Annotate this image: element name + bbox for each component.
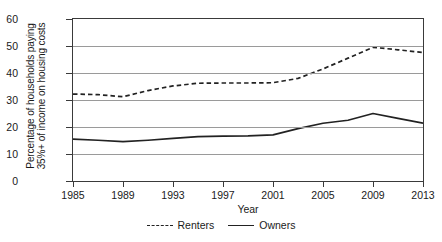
x-tick-label: 2009 xyxy=(351,189,395,201)
y-tick-label: 30 xyxy=(0,94,18,106)
chart-legend: RentersOwners xyxy=(0,219,442,231)
y-tick-label: 10 xyxy=(0,148,18,160)
x-axis-title: Year xyxy=(72,203,424,215)
x-tick-label: 2013 xyxy=(401,189,442,201)
y-tick-label: 50 xyxy=(0,40,18,52)
chart-figure: Percentage of households paying 35%+ of … xyxy=(0,0,442,242)
x-tick-mark xyxy=(273,182,274,187)
y-tick-label: 60 xyxy=(0,13,18,25)
gridline xyxy=(73,73,423,74)
y-tick-label: 40 xyxy=(0,67,18,79)
legend-label: Renters xyxy=(178,219,215,231)
y-axis-title: Percentage of households paying 35%+ of … xyxy=(18,1,54,191)
legend-line-icon xyxy=(228,225,254,226)
legend-item-renters[interactable]: Renters xyxy=(147,219,215,231)
legend-line-icon xyxy=(147,225,173,226)
x-tick-label: 1989 xyxy=(101,189,145,201)
x-tick-label: 1985 xyxy=(51,189,95,201)
x-tick-mark xyxy=(423,182,424,187)
gridline xyxy=(73,46,423,47)
legend-item-owners[interactable]: Owners xyxy=(228,219,295,231)
plot-area xyxy=(72,18,424,182)
y-tick-label: 0 xyxy=(0,175,18,187)
x-tick-mark xyxy=(73,182,74,187)
y-axis-title-line-1: Percentage of households paying xyxy=(25,23,37,168)
x-tick-label: 2005 xyxy=(301,189,345,201)
gridline xyxy=(73,154,423,155)
y-axis-title-line-2: 35%+ of income on housing costs xyxy=(36,23,48,170)
x-tick-label: 1997 xyxy=(201,189,245,201)
x-tick-mark xyxy=(173,182,174,187)
gridline xyxy=(73,127,423,128)
gridline xyxy=(73,100,423,101)
x-tick-mark xyxy=(123,182,124,187)
x-tick-mark xyxy=(373,182,374,187)
x-tick-label: 1993 xyxy=(151,189,195,201)
x-tick-mark xyxy=(223,182,224,187)
x-tick-mark xyxy=(323,182,324,187)
x-tick-label: 2001 xyxy=(251,189,295,201)
legend-label: Owners xyxy=(259,219,295,231)
y-tick-label: 20 xyxy=(0,121,18,133)
